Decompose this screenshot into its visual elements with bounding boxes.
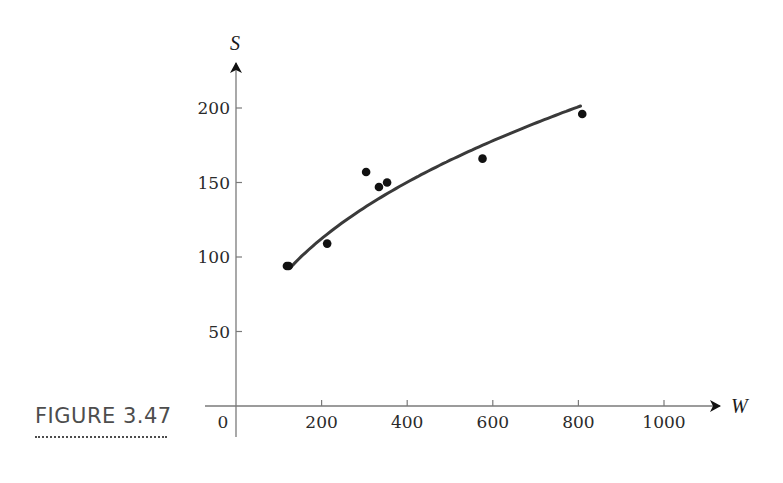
data-point [478,154,487,163]
x-tick-label: 400 [391,412,423,432]
x-tick-label: 600 [477,412,509,432]
y-tick-label: 200 [198,98,230,118]
figure-caption: FIGURE 3.47 [35,404,172,428]
x-tick-label: 200 [305,412,337,432]
data-point [323,239,332,248]
x-tick-label: 800 [562,412,594,432]
data-point [284,262,293,271]
x-axis-title: W [731,395,750,417]
caption-dotted-underline [35,436,167,438]
x-tick-label: 1000 [642,412,685,432]
y-tick-label: 100 [198,247,230,267]
fitted-curve [291,106,581,267]
axes [205,63,720,437]
data-point [362,168,371,177]
data-point [383,178,392,187]
data-point [578,110,587,119]
y-tick-label: 150 [198,173,230,193]
fit-curve-line [291,106,581,267]
data-points [283,110,587,271]
data-point [375,183,384,192]
x-tick-label: 0 [218,412,229,432]
y-tick-label: 50 [208,322,230,342]
axis-labels: 0200400600800100050100150200WS [198,32,750,432]
y-axis-title: S [230,32,240,54]
